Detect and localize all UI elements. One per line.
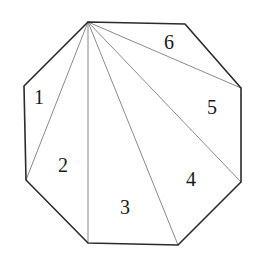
region-label-5: 5 bbox=[207, 96, 217, 118]
octagon-figure: 123456 bbox=[0, 0, 256, 263]
region-label-3: 3 bbox=[120, 196, 130, 218]
region-label-4: 4 bbox=[186, 168, 196, 190]
region-label-2: 2 bbox=[58, 154, 68, 176]
region-label-6: 6 bbox=[164, 31, 174, 53]
region-label-1: 1 bbox=[34, 86, 44, 108]
octagon-diagram: 123456 bbox=[0, 0, 256, 263]
